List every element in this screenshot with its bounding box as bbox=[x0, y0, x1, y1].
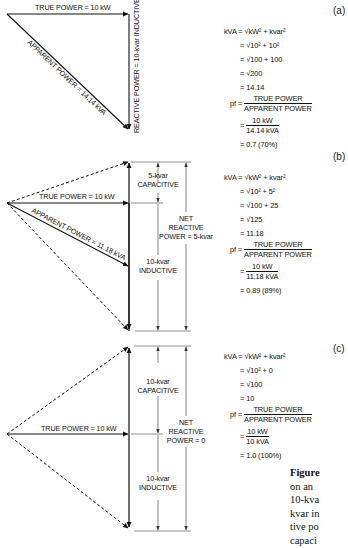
kva-result: = 14.14 bbox=[240, 83, 264, 92]
capacitive-dashed-vector bbox=[7, 347, 128, 434]
inductive-label-2: INDUCTIVE bbox=[139, 483, 177, 492]
reactive-power-label: REACTIVE POWER = 10-kvar INDUCTIVE bbox=[132, 0, 141, 133]
kva-step-3: = √100 + 100 bbox=[240, 55, 282, 64]
pf-formula: pf = TRUE POWERAPPARENT POWER bbox=[230, 241, 312, 259]
apparent-power-label: APPARENT POWER = 11.18 kVA bbox=[30, 206, 127, 263]
pf-result: = 1.0 (100%) bbox=[240, 451, 281, 460]
panel-b-triangle: TRUE POWER = 10 kW APPARENT POWER = 11.1… bbox=[7, 162, 214, 331]
caption-line: tive po bbox=[290, 521, 319, 532]
caption-lead: Figure bbox=[290, 467, 320, 478]
capacitive-label-2: CAPACITIVE bbox=[137, 386, 179, 395]
pf-result: = 0.7 (70%) bbox=[240, 140, 277, 149]
figure-caption: Figure on an 10-kva kvar in tive po capa… bbox=[290, 466, 348, 548]
caption-line: 10-kva bbox=[290, 494, 319, 505]
kva-formula: kVA = √kW² + kvar² bbox=[224, 352, 285, 361]
true-power-label: TRUE POWER = 10 kW bbox=[35, 3, 111, 12]
pf-values: = 10 kW10 kVA bbox=[240, 428, 269, 446]
panel-a-triangle: TRUE POWER = 10 kW APPARENT POWER = 14.1… bbox=[7, 0, 141, 133]
kva-formula: kVA = √kW² + kvar² bbox=[224, 27, 285, 36]
caption-line: on an bbox=[290, 481, 313, 492]
net-reactive-label-1: NET bbox=[179, 214, 194, 223]
caption-line: capaci bbox=[290, 535, 317, 546]
inductive-dashed-vector bbox=[7, 434, 128, 528]
capacitive-label-1: 5-kvar bbox=[148, 171, 168, 180]
kva-step-4: = √125 bbox=[240, 215, 262, 224]
apparent-power-label: APPARENT POWER = 14.14 kVA bbox=[26, 38, 109, 117]
net-reactive-label-3: POWER = 5-kvar bbox=[159, 232, 214, 241]
pf-result: = 0.89 (89%) bbox=[240, 286, 281, 295]
caption-line: kvar in bbox=[290, 508, 319, 519]
true-power-label: TRUE POWER = 10 kW bbox=[39, 192, 115, 201]
kva-step-4: = √200 bbox=[240, 69, 262, 78]
kva-result: = 10 bbox=[240, 394, 254, 403]
inductive-label-1: 10-kvar bbox=[146, 257, 170, 266]
kva-step-2: = √10² + 10² bbox=[240, 41, 279, 50]
panel-c-tag: (c) bbox=[333, 343, 345, 354]
pf-values: = 10 kW11.18 kVA bbox=[240, 263, 278, 281]
net-reactive-label-1: NET bbox=[179, 418, 194, 427]
kva-step-2: = √10² + 0 bbox=[240, 366, 273, 375]
pf-values: = 10 kW14.14 kVA bbox=[240, 117, 279, 135]
net-reactive-label-2: REACTIVE bbox=[168, 223, 203, 232]
kva-step-3: = √100 bbox=[240, 380, 262, 389]
pf-formula: pf = TRUE POWERAPPARENT POWER bbox=[230, 406, 312, 424]
net-reactive-label-2: REACTIVE bbox=[168, 427, 203, 436]
true-power-label: TRUE POWER = 10 kW bbox=[41, 424, 117, 433]
apparent-power-vector bbox=[7, 203, 128, 266]
pf-formula: pf = TRUE POWERAPPARENT POWER bbox=[230, 95, 312, 113]
kva-step-2: = √10² + 5² bbox=[240, 187, 275, 196]
inductive-label-1: 10-kvar bbox=[146, 474, 170, 483]
panel-c-triangle: TRUE POWER = 10 kW 10-kvar CAPACITIVE 10… bbox=[7, 346, 205, 531]
panel-b-tag: (b) bbox=[333, 151, 345, 162]
kva-step-3: = √100 + 25 bbox=[240, 201, 278, 210]
net-reactive-label-3: POWER = 0 bbox=[167, 436, 206, 445]
capacitive-label-2: CAPACITIVE bbox=[137, 180, 179, 189]
panel-a-tag: (a) bbox=[333, 5, 345, 16]
kva-result: = 11.18 bbox=[240, 229, 264, 238]
kva-formula: kVA = √kW² + kvar² bbox=[224, 173, 285, 182]
capacitive-label-1: 10-kvar bbox=[146, 377, 170, 386]
inductive-label-2: INDUCTIVE bbox=[139, 266, 177, 275]
